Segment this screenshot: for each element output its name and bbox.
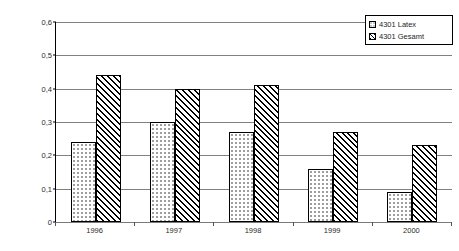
- x-axis-line: [55, 222, 451, 223]
- x-axis-tick-mark: [372, 222, 373, 226]
- x-axis-tick-mark: [451, 222, 452, 226]
- bar-gesamt-1999: [333, 132, 358, 222]
- bar-gesamt-1997: [175, 89, 200, 222]
- legend-swatch-gesamt-icon: [369, 33, 376, 40]
- bar-group-1998: [214, 22, 293, 222]
- x-axis-tick-mark: [293, 222, 294, 226]
- x-axis-label-1998: 1998: [213, 226, 292, 235]
- x-axis-tick-labels: 19961997199819992000: [55, 226, 451, 235]
- y-axis-tick-mark: [53, 55, 56, 56]
- y-axis-tick-label: 0,4: [42, 84, 52, 93]
- y-axis-tick-mark: [53, 88, 56, 89]
- legend-label-gesamt: 4301 Gesamt: [379, 32, 424, 41]
- y-axis-tick-label: 0,2: [42, 151, 52, 160]
- y-axis-tick-label: 0,1: [42, 184, 52, 193]
- y-axis-tick-label: 0,6: [42, 18, 52, 27]
- y-axis-tick-label: 0,5: [42, 51, 52, 60]
- y-axis-tick-mark: [53, 155, 56, 156]
- bar-groups: [56, 22, 452, 222]
- bar-latex-1996: [71, 142, 96, 222]
- plot-area: 0,60,50,40,30,20,10: [55, 22, 452, 222]
- bar-gesamt-2000: [412, 145, 437, 222]
- bar-gesamt-1996: [96, 75, 121, 222]
- bar-group-1997: [135, 22, 214, 222]
- x-axis-tick-mark: [213, 222, 214, 226]
- chart-figure: Inzidenz der BK-Verdachtsfälle je 1 000 …: [0, 0, 459, 251]
- y-axis-tick-mark: [53, 188, 56, 189]
- x-axis-label-1997: 1997: [134, 226, 213, 235]
- bar-group-1999: [294, 22, 373, 222]
- y-axis-tick-label: 0: [48, 218, 52, 227]
- legend: 4301 Latex 4301 Gesamt: [365, 15, 453, 45]
- legend-swatch-latex-icon: [369, 21, 376, 28]
- x-axis-label-2000: 2000: [372, 226, 451, 235]
- bar-group-2000: [373, 22, 452, 222]
- x-axis-label-1999: 1999: [293, 226, 372, 235]
- legend-label-latex: 4301 Latex: [379, 20, 416, 29]
- bar-latex-1998: [229, 132, 254, 222]
- bar-group-1996: [56, 22, 135, 222]
- y-axis-tick-mark: [53, 122, 56, 123]
- bar-gesamt-1998: [254, 85, 279, 222]
- legend-item-latex: 4301 Latex: [369, 18, 449, 30]
- y-axis-tick-mark: [53, 22, 56, 23]
- x-axis-label-1996: 1996: [55, 226, 134, 235]
- bar-latex-1999: [308, 169, 333, 222]
- x-axis-tick-mark: [55, 222, 56, 226]
- y-axis-tick-label: 0,3: [42, 118, 52, 127]
- x-axis-tick-mark: [134, 222, 135, 226]
- legend-item-gesamt: 4301 Gesamt: [369, 30, 449, 42]
- bar-latex-1997: [150, 122, 175, 222]
- bar-latex-2000: [387, 192, 412, 222]
